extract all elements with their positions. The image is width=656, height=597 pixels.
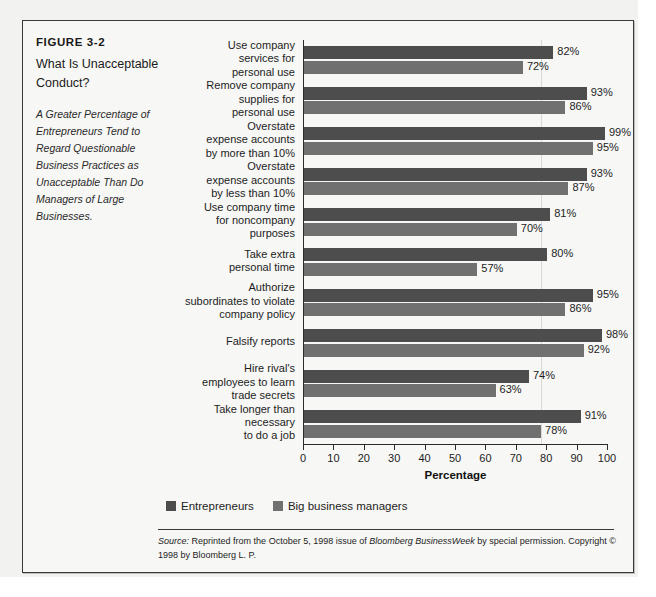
- figure-number: FIGURE 3-2: [36, 36, 166, 48]
- bar-value-label: 93%: [591, 86, 613, 98]
- bar: [304, 370, 529, 383]
- bar: [304, 101, 565, 114]
- x-axis-tick-label: 30: [388, 452, 400, 464]
- bar: [304, 410, 581, 423]
- bar: [304, 87, 587, 100]
- bar-value-label: 82%: [557, 45, 579, 57]
- bar-value-label: 87%: [572, 181, 594, 193]
- bar-value-label: 78%: [545, 424, 567, 436]
- x-axis-tick-label: 50: [449, 452, 461, 464]
- bar-value-label: 98%: [606, 328, 628, 340]
- x-axis-tick-label: 90: [570, 452, 582, 464]
- bar-value-label: 81%: [554, 207, 576, 219]
- figure-caption: FIGURE 3-2 What Is Unacceptable Conduct?…: [36, 36, 166, 225]
- x-axis-tick: [607, 445, 608, 450]
- bar-value-label: 91%: [585, 409, 607, 421]
- bar: [304, 61, 523, 74]
- category-axis-labels: Use company services for personal useRem…: [166, 40, 300, 444]
- chart-legend: EntrepreneursBig business managers: [166, 500, 614, 512]
- x-axis-tick: [577, 445, 578, 450]
- bar: [304, 384, 496, 397]
- figure-subtitle: A Greater Percentage of Entrepreneurs Te…: [36, 106, 166, 225]
- category-label: Overstate expense accounts by more than …: [206, 120, 295, 160]
- legend-item: Entrepreneurs: [166, 500, 254, 512]
- page-margin-bottom: [0, 577, 656, 597]
- category-label: Overstate expense accounts by less than …: [206, 160, 295, 200]
- source-publication: Bloomberg BusinessWeek: [369, 536, 474, 546]
- source-divider: [158, 529, 614, 530]
- bar-value-label: 86%: [569, 100, 591, 112]
- bar: [304, 168, 587, 181]
- source-note: Source: Reprinted from the October 5, 19…: [158, 535, 616, 562]
- x-axis-tick-label: 20: [358, 452, 370, 464]
- bar: [304, 127, 605, 140]
- bar-value-label: 86%: [569, 302, 591, 314]
- bar: [304, 289, 593, 302]
- x-axis-tick: [546, 445, 547, 450]
- bar-value-label: 72%: [527, 60, 549, 72]
- legend-label: Big business managers: [288, 500, 408, 512]
- category-label: Take extra personal time: [229, 248, 295, 275]
- bar: [304, 329, 602, 342]
- category-label: Use company services for personal use: [228, 39, 295, 79]
- x-axis-title: Percentage: [303, 469, 608, 481]
- bar-value-label: 92%: [588, 343, 610, 355]
- bar: [304, 208, 550, 221]
- category-label: Use company time for noncompany purposes: [204, 201, 295, 241]
- x-axis-tick: [333, 445, 334, 450]
- page-margin-right: [638, 0, 656, 597]
- x-axis-tick: [303, 445, 304, 450]
- category-label: Hire rival's employees to learn trade se…: [202, 362, 295, 402]
- bar: [304, 223, 517, 236]
- category-label: Take longer than necessary to do a job: [214, 403, 295, 443]
- bar: [304, 303, 565, 316]
- figure-title: What Is Unacceptable Conduct?: [36, 55, 166, 94]
- x-axis-tick: [364, 445, 365, 450]
- x-axis-tick: [516, 445, 517, 450]
- legend-item: Big business managers: [273, 500, 408, 512]
- x-axis-tick: [394, 445, 395, 450]
- bar-chart: Use company services for personal useRem…: [166, 40, 614, 460]
- bar-value-label: 95%: [597, 141, 619, 153]
- category-label: Remove company supplies for personal use: [206, 79, 295, 119]
- legend-swatch-icon: [166, 501, 176, 511]
- bar: [304, 46, 553, 59]
- legend-label: Entrepreneurs: [181, 500, 254, 512]
- category-label: Falsify reports: [226, 335, 295, 348]
- bar-value-label: 70%: [521, 222, 543, 234]
- bar: [304, 182, 568, 195]
- bar-value-label: 63%: [500, 383, 522, 395]
- bar-value-label: 57%: [481, 262, 503, 274]
- bar: [304, 248, 547, 261]
- bar-value-label: 93%: [591, 167, 613, 179]
- bar-value-label: 74%: [533, 369, 555, 381]
- x-axis-tick-label: 0: [300, 452, 306, 464]
- source-label: Source:: [158, 536, 189, 546]
- x-axis-tick-label: 10: [327, 452, 339, 464]
- x-axis-tick-label: 80: [540, 452, 552, 464]
- bar: [304, 263, 477, 276]
- x-axis-tick: [485, 445, 486, 450]
- x-axis-tick: [425, 445, 426, 450]
- x-axis-tick: [455, 445, 456, 450]
- bar-value-label: 80%: [551, 247, 573, 259]
- category-label: Authorize subordinates to violate compan…: [185, 281, 295, 321]
- bar: [304, 344, 584, 357]
- x-axis-tick-label: 60: [479, 452, 491, 464]
- x-axis-tick-label: 100: [598, 452, 616, 464]
- bar-value-label: 95%: [597, 288, 619, 300]
- bar: [304, 142, 593, 155]
- x-axis-tick-label: 70: [510, 452, 522, 464]
- bar: [304, 425, 541, 438]
- x-axis-tick-label: 40: [418, 452, 430, 464]
- bar-value-label: 99%: [609, 126, 631, 138]
- plot-area: [303, 40, 608, 444]
- legend-swatch-icon: [273, 501, 283, 511]
